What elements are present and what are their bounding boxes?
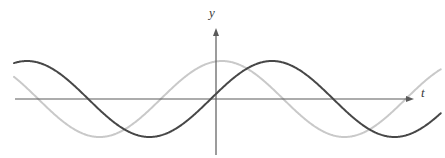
t-axis-arrowhead: [406, 96, 414, 102]
sinusoid-figure: y t: [0, 0, 445, 158]
y-axis-label: y: [209, 6, 215, 19]
plot-canvas: [0, 0, 445, 158]
y-axis-arrowhead: [213, 28, 219, 36]
t-axis-label: t: [421, 86, 425, 99]
